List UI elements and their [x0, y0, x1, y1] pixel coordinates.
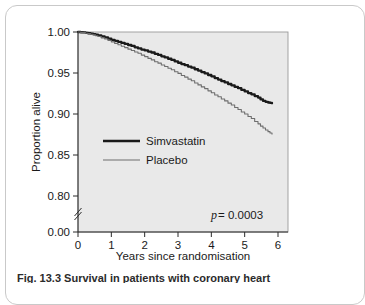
legend-label-simvastatin: Simvastatin [146, 135, 205, 147]
legend-label-placebo: Placebo [146, 154, 188, 166]
x-tick-label: 1 [108, 239, 114, 251]
figure-caption-number: Fig. 13.3 [17, 272, 61, 283]
x-tick-label: 0 [75, 239, 81, 251]
p-value-text: = 0.0003 [218, 209, 263, 221]
p-value-symbol: p [210, 208, 217, 222]
y-axis-title: Proportion alive [30, 92, 42, 172]
y-tick-label: 0.80 [48, 190, 70, 202]
x-tick-label: 6 [275, 239, 281, 251]
y-axis-ticks [73, 32, 78, 232]
chart-svg: 1.000.950.900.850.800.00 0123456 Proport… [0, 0, 333, 272]
y-tick-label: 0.85 [48, 149, 70, 161]
y-axis-tick-labels: 1.000.950.900.850.800.00 [48, 26, 70, 238]
y-tick-label: 0.90 [48, 108, 70, 120]
plot-area [78, 32, 288, 232]
p-value-annotation: p = 0.0003 [210, 208, 263, 222]
y-tick-label: 0.00 [48, 226, 70, 238]
x-axis-ticks [78, 232, 278, 237]
y-tick-label: 0.95 [48, 67, 70, 79]
kaplan-meier-chart: 1.000.950.900.850.800.00 0123456 Proport… [0, 0, 333, 272]
y-tick-label: 1.00 [48, 26, 70, 38]
figure-caption-text: Survival in patients with coronary heart [64, 272, 270, 283]
figure-caption: Fig. 13.3 Survival in patients with coro… [17, 272, 317, 283]
x-axis-title: Years since randomisation [116, 250, 250, 262]
